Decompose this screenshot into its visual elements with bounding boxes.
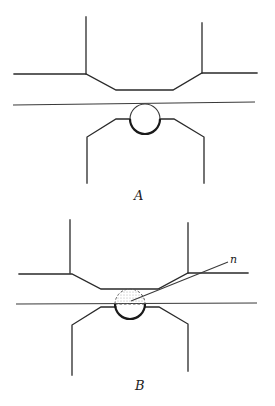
leader-line-n <box>131 262 228 301</box>
plane-line-a <box>13 102 255 105</box>
sphere-a <box>130 104 160 134</box>
stippled-cap <box>115 289 145 304</box>
upper-die-a <box>14 17 257 90</box>
annotation-n: n <box>230 253 237 266</box>
upper-die-b <box>19 220 248 289</box>
lower-die-b <box>72 307 188 375</box>
panel-label-a: A <box>133 188 143 203</box>
sphere-b <box>115 289 145 319</box>
panel-b: n B <box>16 220 257 393</box>
diagram-canvas: A n B <box>0 0 275 406</box>
lower-die-a <box>87 119 204 183</box>
panel-label-b: B <box>134 378 145 393</box>
panel-a: A <box>13 17 257 203</box>
